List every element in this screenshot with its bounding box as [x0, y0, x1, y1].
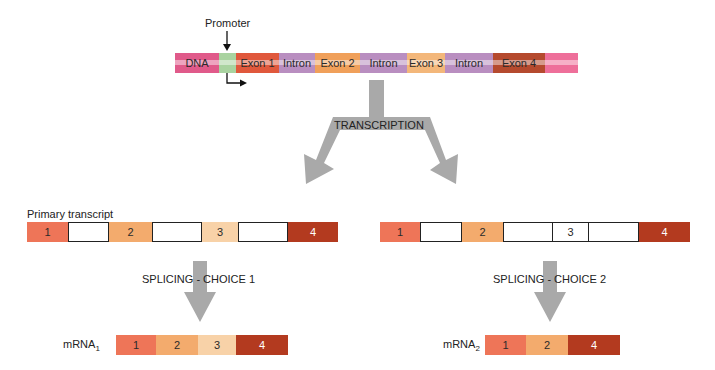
mrna-1-exon-4: 4 [236, 335, 288, 355]
mrna-1-exon-2: 2 [156, 335, 198, 355]
mrna-2-label: mRNA2 [443, 338, 480, 353]
splicing-choice-1-arrow-icon [0, 0, 715, 370]
mrna-1-label: mRNA1 [63, 338, 100, 353]
splicing-choice-1-label: SPLICING - CHOICE 1 [142, 273, 255, 285]
mrna-1-bar: 1 2 3 4 [116, 335, 288, 355]
mrna-2-exon-1: 1 [485, 335, 526, 355]
mrna-1-exon-1: 1 [116, 335, 156, 355]
mrna-2-bar: 1 2 4 [485, 335, 620, 355]
mrna-1-exon-3: 3 [198, 335, 236, 355]
splicing-choice-2-label: SPLICING - CHOICE 2 [493, 273, 606, 285]
mrna-2-exon-2: 2 [526, 335, 568, 355]
mrna-2-exon-4: 4 [568, 335, 620, 355]
